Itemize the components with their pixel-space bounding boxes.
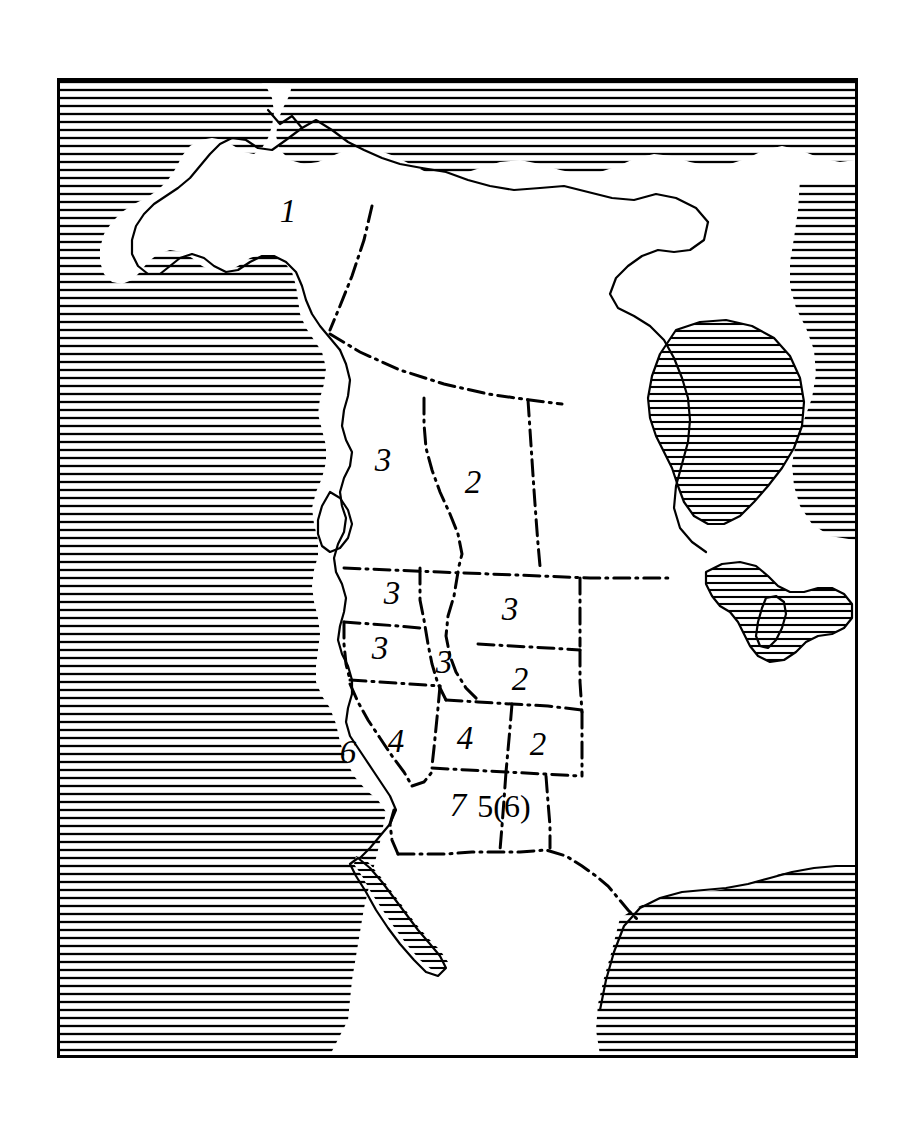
boundary-wa-or-idaho bbox=[420, 568, 446, 700]
zone-label-oregon: 3 bbox=[372, 632, 389, 665]
zone-label-new-mexico: 5(6) bbox=[477, 790, 530, 822]
hudson-bay-hatch bbox=[648, 320, 804, 524]
zone-label-alberta: 2 bbox=[465, 466, 482, 499]
zone-label-colorado: 2 bbox=[530, 728, 547, 761]
zone-label-montana: 3 bbox=[502, 593, 519, 626]
boundary-territories-provinces bbox=[330, 334, 562, 404]
north-america-map bbox=[0, 0, 915, 1126]
zone-label-washington: 3 bbox=[384, 577, 401, 610]
boundary-idaho-montana bbox=[446, 572, 478, 700]
boundary-montana-wyoming bbox=[478, 644, 580, 650]
zone-label-nevada: 4 bbox=[388, 725, 405, 758]
zone-label-idaho: 3 bbox=[436, 646, 453, 679]
boundary-wyoming-colorado bbox=[446, 700, 582, 710]
boundary-bc-alberta bbox=[424, 398, 462, 570]
gulf-of-mexico-hatch bbox=[596, 868, 855, 1055]
boundary-nevada-utah bbox=[432, 686, 440, 766]
boundary-utah-colorado bbox=[506, 704, 512, 772]
figure-page: 13233332442675(6) bbox=[0, 0, 915, 1126]
boundary-wa-or bbox=[344, 622, 420, 628]
atlantic-ocean-hatch bbox=[790, 180, 855, 540]
boundary-wyoming-east bbox=[580, 650, 582, 712]
boundary-oregon-nevada bbox=[350, 680, 440, 686]
zone-label-utah: 4 bbox=[457, 722, 474, 755]
zone-label-arizona: 7 bbox=[450, 789, 467, 822]
zone-label-british-columbia: 3 bbox=[375, 444, 392, 477]
zone-label-wyoming: 2 bbox=[512, 663, 529, 696]
boundary-newmexico-east bbox=[546, 776, 550, 848]
boundary-alaska-yukon bbox=[330, 206, 372, 330]
boundary-alberta-saskatchewan bbox=[528, 400, 540, 566]
boundary-usa-mexico bbox=[398, 850, 638, 920]
boundary-nevada-arizona bbox=[412, 772, 432, 786]
pacific-ocean-hatch bbox=[60, 81, 386, 1055]
zone-label-california: 6 bbox=[340, 736, 357, 769]
gulf-of-california-hatch bbox=[354, 856, 448, 972]
zone-label-alaska: 1 bbox=[280, 195, 297, 228]
